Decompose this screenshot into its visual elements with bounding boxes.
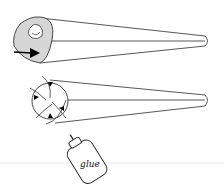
glue-label: glue: [80, 159, 100, 169]
diagram-canvas: glue: [0, 0, 224, 186]
cone-outline: [40, 18, 208, 63]
cone-folded: [30, 76, 208, 124]
cone-rolled: [14, 17, 208, 63]
bottle-nozzle: [70, 135, 73, 140]
cone-outline: [50, 80, 208, 123]
glue-bottle: glue: [58, 127, 109, 186]
